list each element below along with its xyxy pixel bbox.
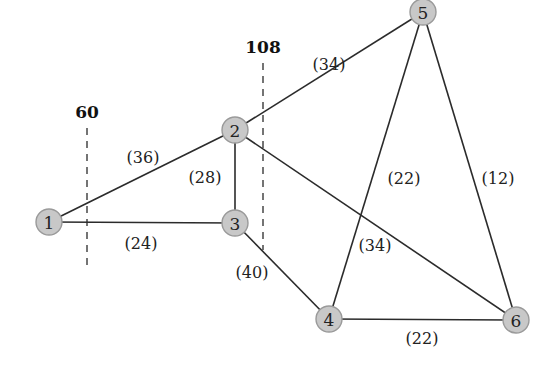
edge-weight-label: (24)	[125, 234, 158, 253]
edge-5-6	[423, 12, 516, 320]
graph-diagram: 60108 (36)(24)(28)(34)(34)(40)(22)(12)(2…	[0, 0, 555, 373]
cut-label: 60	[75, 102, 99, 122]
cut-label: 108	[245, 37, 281, 57]
edge-weight-label: (40)	[236, 263, 269, 282]
node-label: 2	[230, 121, 241, 141]
node-6: 6	[503, 307, 529, 333]
edge-4-6	[329, 319, 516, 320]
node-label: 3	[230, 214, 241, 234]
edge-weight-label: (12)	[482, 169, 515, 188]
edge-weight-label: (36)	[127, 148, 160, 167]
edge-2-6	[235, 130, 516, 320]
node-label: 6	[511, 311, 522, 331]
edge-weight-labels: (36)(24)(28)(34)(34)(40)(22)(12)(22)	[125, 55, 515, 348]
edge-weight-label: (34)	[359, 236, 392, 255]
node-3: 3	[222, 210, 248, 236]
edge-weight-label: (28)	[189, 168, 222, 187]
node-4: 4	[316, 306, 342, 332]
node-label: 5	[418, 3, 429, 23]
edge-weight-label: (34)	[313, 55, 346, 74]
node-label: 4	[324, 310, 335, 330]
edge-weight-label: (22)	[388, 169, 421, 188]
edge-weight-label: (22)	[406, 329, 439, 348]
edges	[49, 12, 516, 320]
node-label: 1	[44, 213, 55, 233]
nodes: 123456	[36, 0, 529, 333]
cut-lines: 60108	[75, 37, 281, 265]
node-2: 2	[222, 117, 248, 143]
node-5: 5	[410, 0, 436, 25]
graph-canvas: 60108 (36)(24)(28)(34)(34)(40)(22)(12)(2…	[0, 0, 555, 373]
edge-1-3	[49, 222, 235, 223]
node-1: 1	[36, 209, 62, 235]
